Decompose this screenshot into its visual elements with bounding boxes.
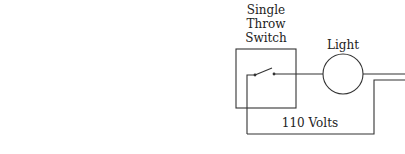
switch-label-line-2: Throw: [247, 17, 287, 31]
voltage-label: 110 Volts: [282, 116, 338, 130]
switch-enclosure: [236, 49, 296, 108]
switch-label-line-1: Single: [247, 3, 285, 17]
switch-label-line-3: Switch: [245, 31, 287, 45]
light-bulb-icon: [323, 54, 363, 94]
circuit-diagram: Single Throw Switch Light 110 Volts: [0, 0, 405, 154]
light-label: Light: [327, 38, 359, 52]
switch-symbol-icon: [247, 68, 275, 134]
